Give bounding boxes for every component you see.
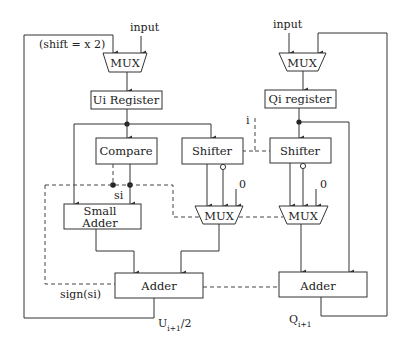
svg-text:Adder: Adder bbox=[140, 279, 177, 293]
right-input-mux: MUX bbox=[279, 53, 326, 71]
svg-text:MUX: MUX bbox=[110, 56, 140, 70]
right-adder-block: Adder bbox=[279, 272, 367, 297]
small-adder-block: Small Adder bbox=[64, 204, 141, 230]
right-input-label: input bbox=[273, 18, 303, 31]
svg-text:Shifter: Shifter bbox=[192, 144, 233, 158]
left-input-mux: MUX bbox=[103, 53, 147, 72]
qi-register-block: Qi register bbox=[265, 90, 336, 108]
left-mux-to-adder-wire bbox=[181, 224, 219, 273]
sign-si-label: sign(si) bbox=[60, 288, 101, 301]
svg-text:MUX: MUX bbox=[288, 209, 318, 223]
right-select-mux: MUX bbox=[279, 206, 328, 224]
svg-text:Shifter: Shifter bbox=[280, 144, 321, 158]
si-label: si bbox=[114, 189, 124, 202]
svg-text:Adder: Adder bbox=[299, 279, 336, 293]
svg-text:Compare: Compare bbox=[99, 144, 152, 158]
feedback-label: (shift = x 2) bbox=[39, 38, 105, 51]
right-zero-label: 0 bbox=[320, 178, 327, 191]
svg-text:MUX: MUX bbox=[287, 56, 317, 70]
svg-text:Ui Register: Ui Register bbox=[93, 93, 160, 107]
u-output-label: Ui+1/2 bbox=[158, 317, 191, 333]
right-shifter-block: Shifter bbox=[270, 138, 331, 163]
left-zero-label: 0 bbox=[239, 178, 246, 191]
left-input-label: input bbox=[130, 21, 160, 34]
svg-text:Qi register: Qi register bbox=[269, 92, 332, 106]
right-shifter-invert-bubble bbox=[300, 163, 305, 168]
compare-block: Compare bbox=[96, 138, 157, 164]
q-output-label: Qi+1 bbox=[289, 313, 312, 329]
svg-text:MUX: MUX bbox=[204, 209, 234, 223]
svg-text:Adder: Adder bbox=[81, 216, 118, 230]
ui-register-block: Ui Register bbox=[91, 91, 162, 109]
left-adder-block: Adder bbox=[115, 273, 203, 298]
division-datapath-diagram: (shift = x 2) input MUX Ui Register Comp… bbox=[0, 0, 409, 346]
left-shifter-block: Shifter bbox=[182, 138, 243, 164]
left-shifter-invert-bubble bbox=[220, 164, 225, 169]
small-adder-to-adder-wire bbox=[96, 229, 134, 273]
sign-si-dashed-to-adder bbox=[45, 185, 115, 284]
left-select-mux: MUX bbox=[195, 206, 243, 224]
index-i-label: i bbox=[246, 114, 250, 127]
